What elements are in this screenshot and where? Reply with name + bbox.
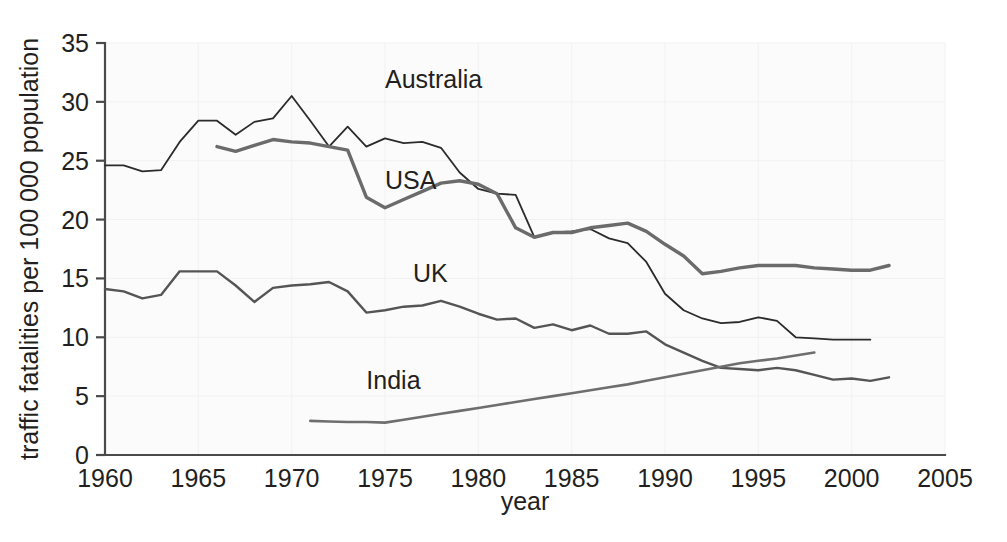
y-tick-label: 30 — [61, 88, 89, 116]
x-tick-label: 1990 — [637, 464, 693, 492]
x-tick-label: 1995 — [731, 464, 787, 492]
series-label-india: India — [366, 366, 420, 394]
x-tick-label: 1985 — [544, 464, 600, 492]
x-tick-label: 2000 — [824, 464, 880, 492]
chart-figure: 05101520253035 1960196519701975198019851… — [0, 0, 1007, 542]
y-axis-title: traffic fatalities per 100 000 populatio… — [15, 38, 43, 460]
x-tick-label: 1965 — [171, 464, 227, 492]
x-tick-label: 1980 — [451, 464, 507, 492]
series-label-usa: USA — [385, 166, 437, 194]
series-label-uk: UK — [413, 259, 448, 287]
y-tick-label: 10 — [61, 323, 89, 351]
x-tick-label: 1970 — [264, 464, 320, 492]
plot-area-background — [105, 43, 945, 455]
x-tick-label: 1960 — [77, 464, 133, 492]
x-tick-label: 2005 — [917, 464, 973, 492]
line-chart: 05101520253035 1960196519701975198019851… — [0, 0, 1007, 542]
series-label-australia: Australia — [385, 65, 482, 93]
y-tick-label: 15 — [61, 264, 89, 292]
y-tick-label: 5 — [75, 382, 89, 410]
y-tick-label: 20 — [61, 206, 89, 234]
x-axis-title: year — [501, 487, 550, 515]
y-tick-label: 25 — [61, 147, 89, 175]
x-tick-label: 1975 — [357, 464, 413, 492]
y-tick-label: 35 — [61, 29, 89, 57]
